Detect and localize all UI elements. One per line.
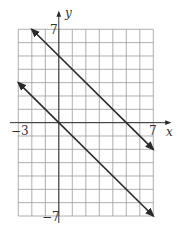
plot-line-upper xyxy=(32,29,154,149)
y-max-tick-label: 7 xyxy=(50,23,58,37)
axes xyxy=(10,12,170,223)
x-max-tick-label: 7 xyxy=(149,124,157,138)
y-axis-label: y xyxy=(64,6,72,20)
coordinate-plane-chart: −3 7 7 −7 x y xyxy=(0,0,182,232)
x-min-tick-label: −3 xyxy=(11,124,29,138)
x-axis-label: x xyxy=(166,125,173,139)
y-min-tick-label: −7 xyxy=(42,210,60,224)
axis-labels: −3 7 7 −7 x y xyxy=(11,6,173,224)
